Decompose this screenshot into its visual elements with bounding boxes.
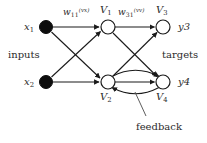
node-v2 (101, 75, 115, 89)
target-label-y4: y4 (178, 77, 190, 87)
targets-group-label: targets (162, 50, 198, 60)
target-label-y3: y3 (178, 22, 190, 32)
node-x1 (40, 21, 53, 34)
node-v1 (101, 20, 115, 34)
node-v4 (156, 75, 170, 89)
node-label-v4: V4 (156, 92, 168, 104)
weight-label-w31: w31(vv) (118, 8, 144, 18)
node-label-v1: V1 (100, 5, 112, 17)
weight-label-w11: w11(vx) (63, 8, 89, 18)
feedback-leader-line (135, 92, 146, 116)
node-x2 (40, 76, 53, 89)
input-label-x1: x1 (24, 22, 34, 34)
inputs-group-label: inputs (8, 50, 40, 60)
hidden-nodes (101, 20, 115, 89)
feedback-annotation-label: feedback (136, 122, 182, 132)
node-v3 (156, 20, 170, 34)
input-nodes (40, 21, 53, 89)
node-label-v3: V3 (156, 5, 168, 17)
input-label-x2: x2 (24, 77, 34, 89)
neural-network-diagram: x1 x2 inputs w11(vx) w31(vv) V1 V3 V2 V4… (0, 0, 207, 143)
node-label-v2: V2 (100, 92, 112, 104)
